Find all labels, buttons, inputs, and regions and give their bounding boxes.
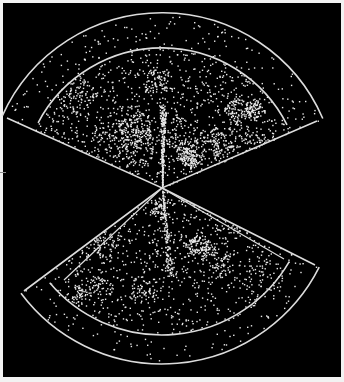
wedge-outlines (2, 13, 323, 364)
redshift-cone-diagram (0, 0, 344, 382)
